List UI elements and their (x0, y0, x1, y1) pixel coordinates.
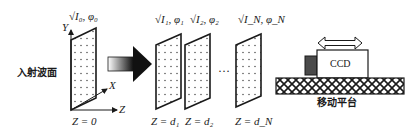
x-axis-label: X (109, 80, 116, 91)
ccd-lens (305, 56, 317, 75)
plane-0-field-label: √I₀, φ₀ (69, 11, 98, 22)
plane-0-position-label: Z = 0 (72, 116, 97, 127)
moving-platform (276, 78, 404, 94)
plane-2-field-label: √I₂, φ₂ (190, 14, 219, 25)
double-arrow-icon (318, 37, 362, 49)
incident-wavefront-label: 入射波面 (17, 68, 57, 78)
plane-n-field-label: √I_N, φ_N (238, 14, 285, 25)
propagation-arrow-icon (108, 46, 152, 82)
z-axis-label: Z (119, 104, 125, 115)
plane-n (236, 34, 261, 107)
ccd-label: CCD (330, 59, 351, 69)
plane-1-position-label: Z = d₁ (151, 116, 179, 127)
plane-1 (156, 34, 181, 109)
plane-2-position-label: Z = d₂ (185, 116, 213, 127)
ellipsis: … (218, 62, 230, 74)
y-axis-label: Y (62, 22, 68, 33)
plane-1-field-label: √I₁, φ₁ (155, 14, 184, 25)
plane-2 (185, 34, 210, 109)
platform-label: 移动平台 (317, 98, 357, 108)
plane-n-position-label: Z = d_N (235, 116, 272, 127)
